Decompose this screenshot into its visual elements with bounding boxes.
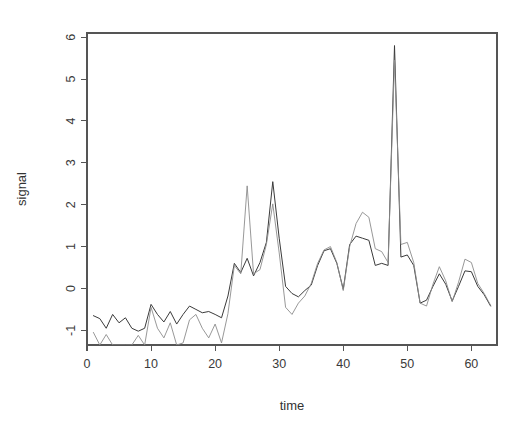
- y-tick-label: 0: [64, 285, 78, 292]
- series-line-fitted: [93, 60, 490, 345]
- y-tick-label: 5: [64, 76, 78, 83]
- plot-axes: [87, 33, 497, 345]
- x-tick-label: 40: [336, 357, 350, 371]
- x-axis-ticks: 0102030405060: [84, 345, 479, 371]
- line-chart: -10123456 0102030405060 signal time: [0, 0, 519, 433]
- y-tick-label: 1: [64, 243, 78, 250]
- y-tick-label: -1: [64, 325, 78, 336]
- y-axis-label: signal: [14, 172, 29, 206]
- series-line-observed: [93, 46, 490, 332]
- y-tick-label: 3: [64, 159, 78, 166]
- y-tick-label: 4: [64, 117, 78, 124]
- x-axis-label: time: [280, 398, 305, 413]
- y-tick-label: 6: [64, 34, 78, 41]
- chart-figure: -10123456 0102030405060 signal time: [0, 0, 519, 433]
- x-tick-label: 0: [84, 357, 91, 371]
- y-tick-label: 2: [64, 201, 78, 208]
- data-series: [93, 46, 490, 345]
- y-axis-ticks: -10123456: [64, 34, 88, 336]
- x-tick-label: 20: [208, 357, 222, 371]
- x-tick-label: 60: [464, 357, 478, 371]
- x-tick-label: 50: [400, 357, 414, 371]
- x-tick-label: 30: [272, 357, 286, 371]
- x-tick-label: 10: [144, 357, 158, 371]
